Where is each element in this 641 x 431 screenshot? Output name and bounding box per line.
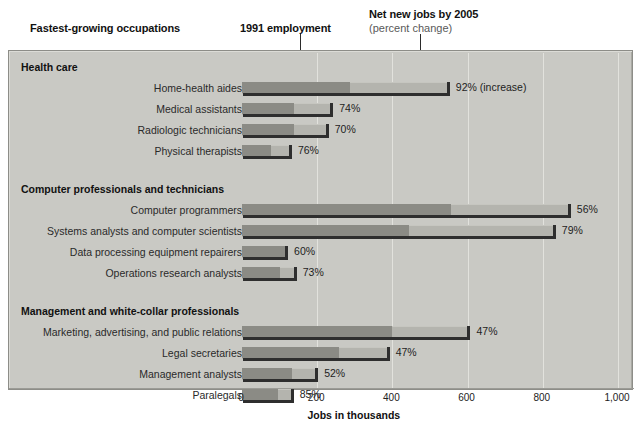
bar-value-label: 70% bbox=[335, 123, 356, 135]
bar-group bbox=[242, 326, 469, 337]
bar-value-label: 74% bbox=[339, 102, 360, 114]
bar-shadow bbox=[243, 156, 292, 159]
bar-endcap bbox=[285, 246, 288, 260]
row-label: Home-health aides bbox=[154, 82, 242, 94]
bar-group bbox=[242, 225, 555, 236]
bar-value-label: 47% bbox=[476, 325, 497, 337]
chart-row: Systems analysts and computer scientists… bbox=[9, 224, 634, 239]
bar-value-label: 76% bbox=[298, 144, 319, 156]
group-heading-2: Management and white-collar professional… bbox=[21, 305, 239, 317]
row-label: Medical assistants bbox=[156, 103, 242, 115]
bar-shadow bbox=[243, 215, 571, 218]
chart-row: Home-health aides92% (increase) bbox=[9, 81, 634, 96]
chart-row: Medical assistants74% bbox=[9, 102, 634, 117]
bar-endcap bbox=[289, 145, 292, 159]
x-tick-label-600: 600 bbox=[458, 392, 475, 403]
bar-shadow bbox=[243, 257, 288, 260]
group-heading-0: Health care bbox=[21, 61, 78, 73]
bar-value-label: 73% bbox=[303, 266, 324, 278]
page-title: Fastest-growing occupations bbox=[30, 22, 180, 34]
chart-row: Physical therapists76% bbox=[9, 144, 634, 159]
bar-endcap bbox=[294, 267, 297, 281]
bar-shadow bbox=[243, 93, 450, 96]
bar-value-label: 47% bbox=[396, 346, 417, 358]
bar-endcap bbox=[315, 368, 318, 382]
x-tick-label-400: 400 bbox=[383, 392, 400, 403]
chart-row: Data processing equipment repairers60% bbox=[9, 245, 634, 260]
x-axis: 02004006008001,000Jobs in thousands bbox=[8, 392, 633, 431]
bar-value-label: 79% bbox=[562, 224, 583, 236]
bar-value-label: 56% bbox=[577, 203, 598, 215]
bar-endcap bbox=[326, 124, 329, 138]
bar-shadow bbox=[243, 135, 329, 138]
x-tick-label-1000: 1,000 bbox=[604, 392, 629, 403]
chart-header: Fastest-growing occupations 1991 employm… bbox=[0, 0, 641, 52]
x-tick-label-200: 200 bbox=[308, 392, 325, 403]
axis-baseline bbox=[9, 388, 634, 389]
chart-row: Computer programmers56% bbox=[9, 203, 634, 218]
row-label: Operations research analysts bbox=[105, 267, 242, 279]
row-label: Computer programmers bbox=[131, 204, 242, 216]
bar-shadow bbox=[243, 358, 390, 361]
bar-endcap bbox=[447, 82, 450, 96]
bar-1991-employment bbox=[242, 246, 285, 257]
bar-1991-employment bbox=[242, 267, 280, 278]
bar-group bbox=[242, 204, 570, 215]
bar-group bbox=[242, 103, 332, 114]
row-label: Marketing, advertising, and public relat… bbox=[43, 326, 242, 338]
bar-group bbox=[242, 368, 317, 379]
bar-endcap bbox=[467, 326, 470, 340]
x-tick-label-800: 800 bbox=[533, 392, 550, 403]
bar-shadow bbox=[243, 114, 333, 117]
bar-value-label: 52% bbox=[324, 367, 345, 379]
bar-1991-employment bbox=[242, 145, 271, 156]
bar-1991-employment bbox=[242, 82, 350, 93]
bar-endcap bbox=[553, 225, 556, 239]
bar-1991-employment bbox=[242, 124, 294, 135]
bar-group bbox=[242, 82, 449, 93]
bar-1991-employment bbox=[242, 368, 292, 379]
legend-label-1991-employment: 1991 employment bbox=[240, 22, 331, 34]
bar-group bbox=[242, 246, 287, 257]
row-label: Radiologic technicians bbox=[138, 124, 242, 136]
legend-label-net-new-jobs: Net new jobs by 2005 bbox=[369, 8, 478, 20]
bar-1991-employment bbox=[242, 204, 451, 215]
bar-shadow bbox=[243, 236, 556, 239]
bar-shadow bbox=[243, 379, 318, 382]
chart-panel: Health careHome-health aides92% (increas… bbox=[8, 50, 633, 390]
bar-group bbox=[242, 267, 296, 278]
bar-value-label: 92% (increase) bbox=[456, 81, 527, 93]
chart-row: Radiologic technicians70% bbox=[9, 123, 634, 138]
chart-row: Legal secretaries47% bbox=[9, 346, 634, 361]
legend-sublabel-percent-change: (percent change) bbox=[369, 22, 452, 34]
row-label: Data processing equipment repairers bbox=[70, 246, 242, 258]
bar-endcap bbox=[568, 204, 571, 218]
bar-group bbox=[242, 145, 291, 156]
bar-1991-employment bbox=[242, 347, 339, 358]
chart-row: Marketing, advertising, and public relat… bbox=[9, 325, 634, 340]
bar-group bbox=[242, 124, 328, 135]
bar-endcap bbox=[330, 103, 333, 117]
chart-row: Operations research analysts73% bbox=[9, 266, 634, 281]
bar-1991-employment bbox=[242, 103, 294, 114]
bar-endcap bbox=[387, 347, 390, 361]
bar-group bbox=[242, 347, 389, 358]
x-axis-title: Jobs in thousands bbox=[307, 409, 400, 421]
bar-shadow bbox=[243, 337, 470, 340]
row-label: Management analysts bbox=[139, 368, 242, 380]
bar-value-label: 60% bbox=[294, 245, 315, 257]
chart-row: Management analysts52% bbox=[9, 367, 634, 382]
bar-1991-employment bbox=[242, 225, 409, 236]
bar-shadow bbox=[243, 278, 297, 281]
group-heading-1: Computer professionals and technicians bbox=[21, 183, 224, 195]
bar-1991-employment bbox=[242, 326, 392, 337]
x-tick-label-0: 0 bbox=[238, 392, 244, 403]
row-label: Systems analysts and computer scientists bbox=[47, 225, 242, 237]
row-label: Physical therapists bbox=[154, 145, 242, 157]
plot-area: Health careHome-health aides92% (increas… bbox=[9, 51, 634, 391]
row-label: Legal secretaries bbox=[162, 347, 242, 359]
